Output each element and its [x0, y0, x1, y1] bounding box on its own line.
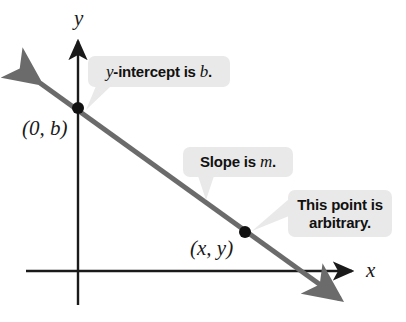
callout-slope-prefix: Slope is	[200, 153, 260, 170]
x-axis-label: x	[366, 260, 375, 281]
arbitrary-point-dot	[239, 226, 251, 238]
callout-arbitrary-line1: This point is	[297, 196, 383, 213]
callout-arbitrary: This point is arbitrary.	[288, 190, 392, 237]
callout-arbitrary-line2: arbitrary.	[309, 214, 371, 231]
callout-tail-y-intercept	[86, 86, 110, 110]
callout-tail-arbitrary	[252, 199, 289, 231]
arbitrary-point-label: (x, y)	[190, 238, 233, 259]
callout-slope-period: .	[272, 153, 276, 170]
callout-slope-text: Slope is m.	[200, 152, 276, 172]
y-intercept-dot	[72, 102, 84, 114]
callout-slope: Slope is m.	[183, 147, 293, 177]
callout-y-intercept-middle: -intercept is	[113, 63, 199, 80]
variable-b: b	[200, 62, 208, 81]
y-axis-label: y	[74, 8, 83, 29]
y-intercept-point-label: (0, b)	[22, 118, 68, 139]
variable-m: m	[260, 152, 272, 171]
callout-y-intercept-period: .	[208, 63, 212, 80]
slope-intercept-figure: y x (0, b) (x, y) y-intercept is b. Slop…	[0, 0, 406, 322]
callout-y-intercept-text: y-intercept is b.	[106, 62, 212, 82]
callout-y-intercept: y-intercept is b.	[88, 56, 230, 87]
